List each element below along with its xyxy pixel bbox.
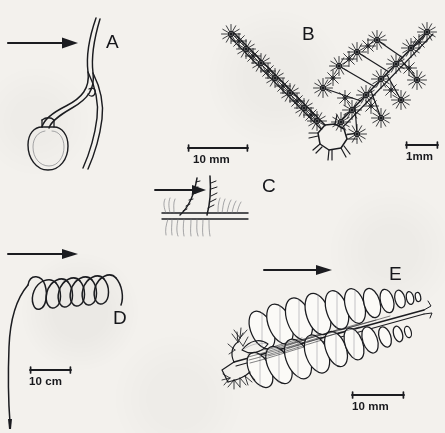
barbed-awn-left bbox=[180, 178, 200, 215]
awn-outline bbox=[42, 18, 103, 169]
right-branch-stellate-hairs bbox=[314, 23, 437, 144]
botanical-figure-plate: A 10 mm bbox=[0, 0, 445, 433]
scale-bar-d bbox=[28, 365, 76, 375]
soil-surface-line bbox=[162, 213, 248, 219]
panel-letter-a: A bbox=[106, 32, 119, 51]
panel-c-illustration bbox=[150, 168, 300, 236]
helical-coil bbox=[28, 275, 122, 309]
panel-letter-d: D bbox=[113, 308, 127, 327]
tendril-tail bbox=[8, 285, 28, 429]
panel-e-illustration bbox=[218, 258, 445, 398]
direction-arrow-e bbox=[264, 265, 332, 275]
surface-hairs bbox=[164, 198, 241, 213]
barbed-awn-right bbox=[207, 176, 217, 215]
scale-bar-d-label: 10 cm bbox=[29, 376, 62, 388]
scale-bar-b bbox=[404, 140, 444, 150]
panel-letter-e: E bbox=[389, 264, 402, 283]
seed-body bbox=[28, 118, 68, 170]
panel-letter-b: B bbox=[302, 24, 315, 43]
frond-apex bbox=[424, 301, 432, 318]
direction-arrow-a bbox=[8, 38, 78, 49]
scale-bar-e-label: 10 mm bbox=[352, 401, 389, 413]
direction-arrow-d bbox=[8, 249, 78, 259]
scale-bar-e bbox=[350, 390, 408, 400]
root-hairs bbox=[166, 219, 210, 236]
scale-bar-b-label: 1mm bbox=[406, 151, 433, 163]
panel-a-illustration bbox=[0, 12, 150, 182]
panel-d-illustration bbox=[0, 245, 215, 433]
panel-letter-c: C bbox=[262, 176, 276, 195]
direction-arrow-c bbox=[155, 185, 206, 195]
